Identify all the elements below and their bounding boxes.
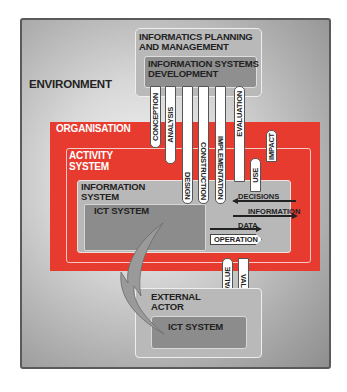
- lightning-link-icon: [0, 0, 347, 392]
